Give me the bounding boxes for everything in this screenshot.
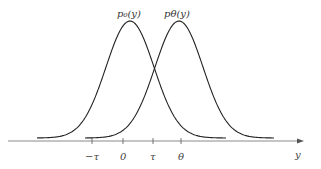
axis-arrow-icon (297, 139, 304, 144)
axis-label-y: y (294, 149, 301, 160)
curve-ptheta (85, 21, 274, 138)
curve-label-p0: p₀(y) (117, 8, 141, 19)
tick-label-neg-tau: −τ (85, 151, 99, 162)
gaussian-diagram: p₀(y) pθ(y) −τ 0 τ θ y (0, 0, 321, 169)
tick-label-theta: θ (178, 151, 184, 162)
curve-label-ptheta: pθ(y) (164, 8, 190, 19)
tick-label-zero: 0 (120, 151, 127, 162)
tick-label-tau: τ (150, 151, 156, 162)
curve-p0 (37, 21, 226, 138)
